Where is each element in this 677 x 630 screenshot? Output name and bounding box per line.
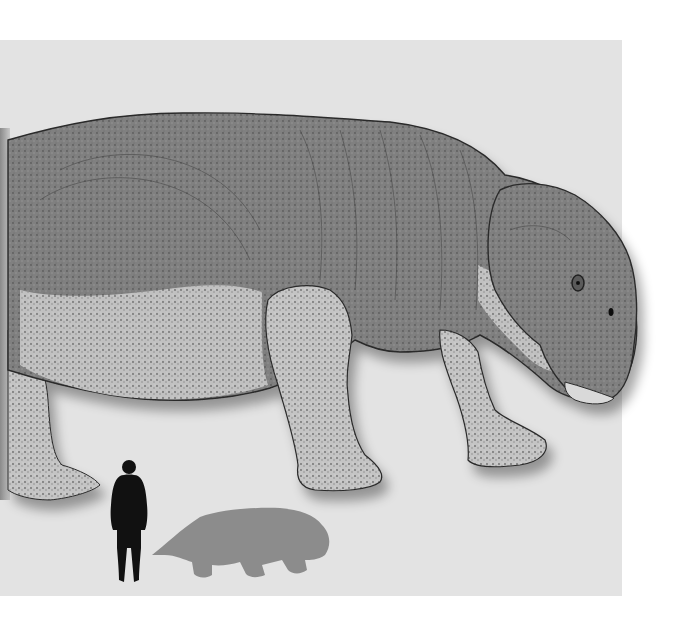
head bbox=[488, 184, 637, 401]
creature-illustration bbox=[0, 0, 677, 630]
human-scale-silhouette bbox=[111, 460, 148, 582]
creature bbox=[8, 113, 637, 500]
nostril bbox=[609, 308, 614, 316]
animal-scale-silhouette bbox=[152, 508, 329, 578]
